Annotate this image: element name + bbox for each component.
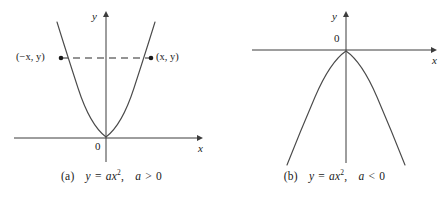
caption-b-equals: = [317,170,326,182]
point-label-negative-x: (−x, y) [16,52,45,63]
caption-a-comma: , [121,170,124,182]
caption-b-condition-var: a [359,170,365,182]
point-label-positive-x: (x, y) [156,52,179,63]
caption-a-condition-var: a [135,170,141,182]
caption-a-tag: (a) [61,170,74,182]
caption-b-lhs: y [309,170,314,182]
caption-a-equals: = [94,170,103,182]
y-axis-label-b: y [332,11,337,22]
point-marker-left [59,56,64,61]
caption-a: (a) y = ax2, a > 0 [0,170,223,182]
panel-parabola-downward: y x 0 (b) y = ax2, a < 0 [223,0,446,203]
caption-b-comma: , [344,170,347,182]
origin-label-a: 0 [95,141,101,152]
caption-a-condition-rel: > [144,170,153,182]
caption-a-lhs: y [86,170,91,182]
panel-parabola-upward: y x 0 (−x, y) (x, y) (a) y = ax2, a > 0 [0,0,223,203]
x-axis-label-a: x [198,143,203,154]
figure-root: y x 0 (−x, y) (x, y) (a) y = ax2, a > 0 [0,0,446,203]
caption-a-condition-value: 0 [156,170,162,182]
y-axis-label-a: y [92,11,97,22]
origin-label-b: 0 [334,33,340,44]
caption-b: (b) y = ax2, a < 0 [223,170,446,182]
caption-b-condition-value: 0 [379,170,385,182]
point-marker-right [149,56,154,61]
x-axis-label-b: x [432,55,437,66]
point-label-positive-x-text: (x, y) [156,51,179,62]
caption-b-condition-rel: < [368,170,377,182]
caption-b-tag: (b) [284,170,298,182]
point-label-negative-x-text: (−x, y) [16,51,45,62]
